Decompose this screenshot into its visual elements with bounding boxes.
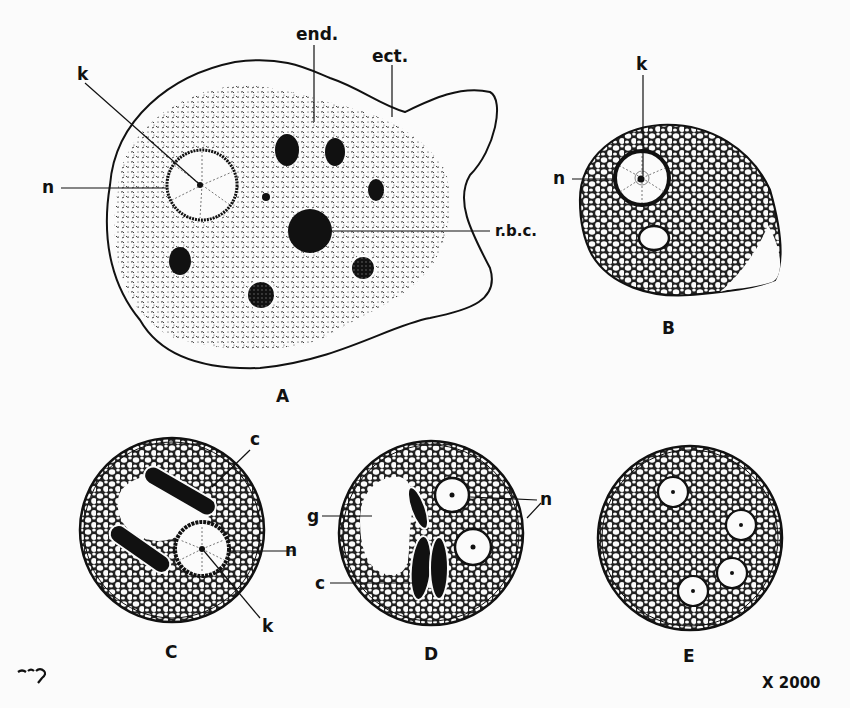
label-nuclei-d: n (540, 489, 552, 509)
karyosome-d-1 (450, 493, 455, 498)
label-endoplasm: end. (296, 24, 338, 44)
panel-b-precyst: k n B (553, 54, 780, 338)
label-nucleus: n (42, 177, 54, 197)
glycogen-vacuole-b (639, 226, 669, 250)
label-ectoplasm: ect. (372, 46, 408, 66)
karyosome-b (638, 176, 645, 183)
label-glycogen-d: g (307, 506, 319, 526)
panel-label-e: E (683, 646, 695, 666)
panel-label-b: B (662, 318, 675, 338)
red-blood-cell-digesting (247, 281, 275, 309)
artist-signature (18, 669, 45, 683)
label-red-blood-cell: r.b.c. (495, 222, 537, 240)
panel-c-uninucleate-cyst: c n k C (80, 429, 297, 662)
karyosome-d-2 (471, 545, 476, 550)
label-karyosome-c: k (262, 616, 274, 636)
label-chromatoid-d: c (315, 573, 325, 593)
chromatoid-body-d-3 (430, 537, 448, 599)
panel-label-d: D (424, 644, 438, 664)
panel-a-trophozoite: k n end. ect. r.b.c. A (42, 24, 537, 406)
label-nucleus-c: n (285, 540, 297, 560)
figure-plate: k n end. ect. r.b.c. A k n B (0, 0, 850, 708)
panel-d-binucleate-cyst: g c n D (307, 441, 552, 664)
label-karyosome: k (77, 64, 89, 84)
label-nucleus-b: n (553, 168, 565, 188)
panel-label-a: A (276, 386, 290, 406)
red-blood-cell-digesting (351, 256, 375, 280)
panel-label-c: C (165, 642, 177, 662)
panel-e-quadrinucleate-cyst: E (598, 446, 782, 666)
magnification-label: X 2000 (762, 674, 821, 692)
label-karyosome-b: k (636, 54, 648, 74)
label-chromatoid-c: c (250, 429, 260, 449)
